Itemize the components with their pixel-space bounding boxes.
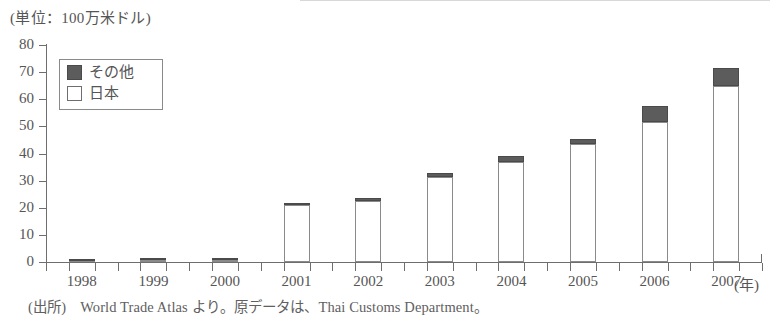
y-tick-10: 10 — [39, 235, 46, 236]
x-tick-boundary — [619, 263, 620, 271]
y-tick-label-70: 70 — [19, 63, 34, 80]
y-tick-label-40: 40 — [19, 145, 34, 162]
x-tick-bar-edge — [739, 263, 740, 271]
bar-segment-other-2005[interactable] — [570, 139, 596, 144]
x-axis-label-2003: 2003 — [404, 273, 476, 290]
y-tick-50: 50 — [39, 126, 46, 127]
bar-segment-other-1999[interactable] — [140, 258, 166, 260]
y-axis-line — [46, 44, 47, 263]
x-tick-bar-edge — [95, 263, 96, 271]
bar-segment-japan-2003[interactable] — [427, 177, 453, 262]
x-tick-boundary — [332, 263, 333, 271]
y-tick-label-30: 30 — [19, 172, 34, 189]
y-tick-label-60: 60 — [19, 90, 34, 107]
x-axis-label-1998: 1998 — [46, 273, 118, 290]
legend-swatch-other-icon — [67, 65, 82, 80]
bar-segment-other-2007[interactable] — [713, 68, 739, 86]
x-tick-bar-edge — [453, 263, 454, 271]
x-tick-boundary — [46, 263, 47, 271]
x-axis-label-2004: 2004 — [476, 273, 548, 290]
bar-group-2002[interactable] — [355, 198, 381, 262]
x-tick-bar-edge — [427, 263, 428, 271]
y-tick-label-10: 10 — [19, 226, 34, 243]
y-tick-0: 0 — [39, 262, 46, 263]
x-axis-label-1999: 1999 — [118, 273, 190, 290]
x-axis-label-2005: 2005 — [547, 273, 619, 290]
x-tick-bar-edge — [284, 263, 285, 271]
x-tick-bar-edge — [381, 263, 382, 271]
bar-group-1998[interactable] — [69, 260, 95, 262]
bar-segment-japan-2006[interactable] — [642, 122, 668, 262]
x-tick-bar-edge — [166, 263, 167, 271]
x-tick-boundary — [261, 263, 262, 271]
x-tick-bar-edge — [238, 263, 239, 271]
x-tick-bar-edge — [642, 263, 643, 271]
x-axis-label-2001: 2001 — [261, 273, 333, 290]
x-tick-bar-edge — [212, 263, 213, 271]
x-tick-bar-edge — [69, 263, 70, 271]
x-tick-bar-edge — [596, 263, 597, 271]
y-tick-60: 60 — [39, 99, 46, 100]
y-tick-label-0: 0 — [27, 253, 35, 270]
y-tick-label-80: 80 — [19, 36, 34, 53]
bar-segment-other-2006[interactable] — [642, 106, 668, 122]
x-tick-bar-edge — [355, 263, 356, 271]
x-axis-end-tick — [761, 254, 762, 263]
bar-segment-other-2000[interactable] — [212, 258, 238, 260]
bar-segment-japan-2004[interactable] — [498, 162, 524, 262]
y-tick-80: 80 — [39, 45, 46, 46]
x-tick-boundary — [118, 263, 119, 271]
legend-swatch-japan-icon — [67, 86, 82, 101]
bar-segment-other-1998[interactable] — [69, 259, 95, 261]
bar-group-1999[interactable] — [140, 259, 166, 262]
y-tick-20: 20 — [39, 208, 46, 209]
bar-group-2006[interactable] — [642, 106, 668, 262]
bar-segment-other-2002[interactable] — [355, 198, 381, 201]
source-note: (出所) World Trade Atlas より。原データは、Thai Cus… — [28, 295, 488, 316]
x-axis-unit-label: (年) — [734, 273, 759, 294]
bar-segment-other-2004[interactable] — [498, 156, 524, 161]
bar-group-2007[interactable] — [713, 68, 739, 262]
x-tick-bar-edge — [668, 263, 669, 271]
bar-segment-japan-2000[interactable] — [212, 260, 238, 262]
x-axis-label-2000: 2000 — [189, 273, 261, 290]
bar-group-2004[interactable] — [498, 156, 524, 262]
bar-segment-other-2001[interactable] — [284, 203, 310, 205]
chart-legend: その他 日本 — [59, 59, 163, 110]
bar-segment-other-2003[interactable] — [427, 173, 453, 177]
legend-item-japan: 日本 — [67, 86, 119, 101]
x-tick-boundary — [476, 263, 477, 271]
x-tick-bar-edge — [310, 263, 311, 271]
bar-segment-japan-2005[interactable] — [570, 144, 596, 262]
y-axis-unit-label: (単位：100万米ドル) — [10, 6, 151, 27]
y-tick-40: 40 — [39, 154, 46, 155]
y-tick-label-20: 20 — [19, 199, 34, 216]
x-tick-bar-edge — [498, 263, 499, 271]
x-tick-bar-edge — [140, 263, 141, 271]
bar-segment-japan-2001[interactable] — [284, 205, 310, 262]
x-axis-label-2006: 2006 — [619, 273, 691, 290]
y-tick-70: 70 — [39, 72, 46, 73]
top-divider-line — [300, 0, 770, 1]
bar-group-2001[interactable] — [284, 204, 310, 262]
y-tick-label-50: 50 — [19, 117, 34, 134]
x-tick-bar-edge — [713, 263, 714, 271]
x-tick-boundary — [404, 263, 405, 271]
legend-label-japan: 日本 — [89, 86, 119, 101]
x-tick-boundary — [547, 263, 548, 271]
x-tick-boundary — [690, 263, 691, 271]
bar-segment-japan-2007[interactable] — [713, 86, 739, 262]
bar-group-2003[interactable] — [427, 173, 453, 263]
x-tick-bar-edge — [524, 263, 525, 271]
bar-group-2005[interactable] — [570, 139, 596, 262]
legend-item-other: その他 — [67, 65, 134, 80]
bar-segment-japan-2002[interactable] — [355, 201, 381, 262]
y-tick-30: 30 — [39, 181, 46, 182]
bar-group-2000[interactable] — [212, 259, 238, 262]
x-tick-boundary — [762, 263, 763, 271]
x-tick-bar-edge — [570, 263, 571, 271]
x-tick-boundary — [189, 263, 190, 271]
legend-label-other: その他 — [89, 65, 134, 80]
x-axis-label-2002: 2002 — [332, 273, 404, 290]
